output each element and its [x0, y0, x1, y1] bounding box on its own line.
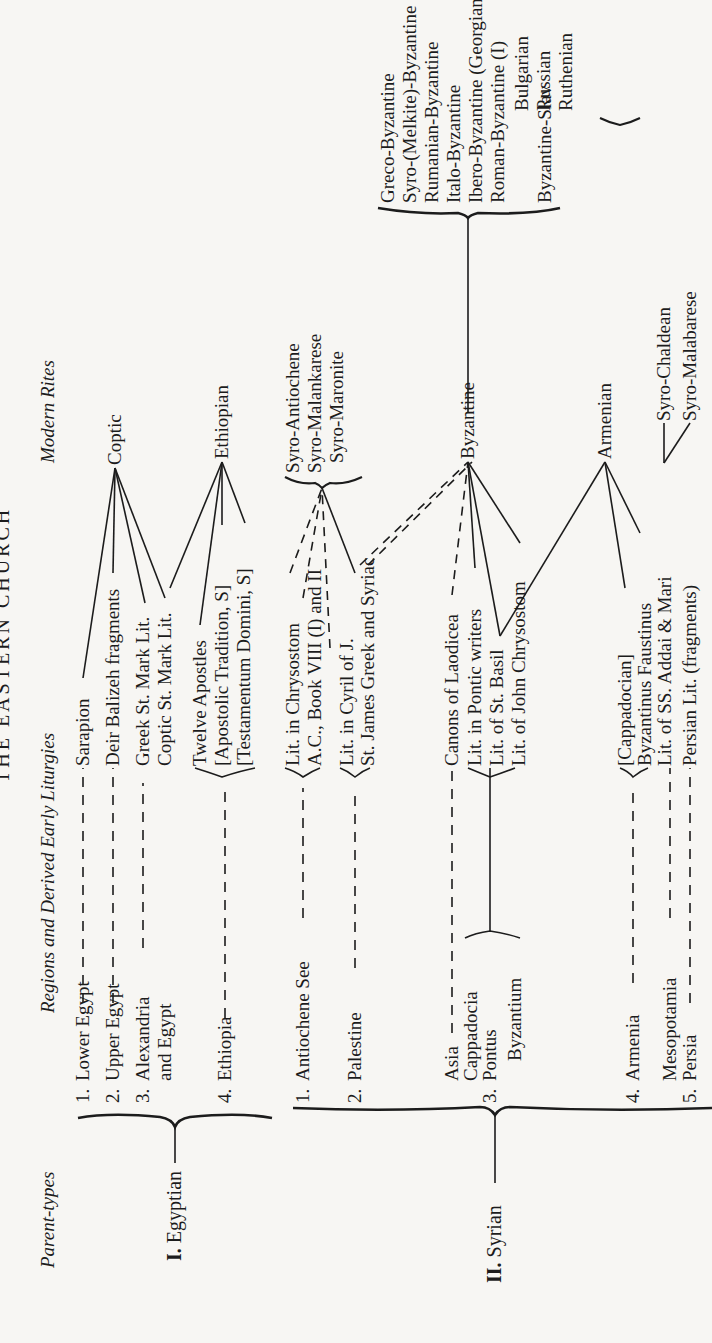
liturgy-addai-mari: Lit. of SS. Addai & Mari	[655, 577, 675, 766]
liturgy-deir-balizeh: Deir Balizeh fragments	[103, 589, 123, 766]
region-persia: 5.Persia	[680, 1035, 700, 1103]
rite-syro-chaldean: Syro-Chaldean	[654, 307, 674, 421]
liturgy-pontic-writers: Lit. in Pontic writers	[465, 609, 485, 766]
rite-syro-melkite-byzantine: Syro-(Melkite)-Byzantine	[400, 6, 420, 203]
liturgy-coptic-st-mark: Coptic St. Mark Lit.	[155, 612, 175, 766]
liturgy-st-basil: Lit. of St. Basil	[487, 649, 507, 766]
rite-syro-antiochene: Syro-Antiochene	[283, 343, 303, 473]
region-upper-egypt: 2.Upper Egypt	[103, 983, 123, 1103]
liturgy-sarapion: Sarapion	[73, 698, 93, 766]
syrian-brace	[293, 1107, 712, 1115]
rite-roman-byzantine: Roman-Byzantine (I)	[488, 41, 508, 203]
region-antiochene-see: 1.Antiochene See	[293, 961, 313, 1103]
region-pontus: 3.Pontus	[480, 1029, 500, 1103]
rite-bulgarian: Bulgarian	[512, 36, 532, 111]
rite-armenian: Armenian	[595, 383, 615, 459]
syro-brace	[285, 477, 362, 488]
egyptian-brace	[78, 1115, 272, 1127]
rite-ibero-byzantine: Ibero-Byzantine (Georgian)	[466, 0, 486, 203]
rite-russian: Russian	[534, 51, 554, 111]
liturgy-greek-st-mark: Greek St. Mark Lit.	[133, 617, 153, 766]
page-title: THE EASTERN CHURCH	[0, 507, 12, 783]
liturgy-twelve-apostles: Twelve Apostles	[190, 640, 210, 766]
liturgy-cyril-of-jerusalem: Lit. in Cyril of J.	[337, 638, 357, 766]
liturgy-apostolic-tradition: [Apostolic Tradition, S]	[212, 585, 232, 766]
liturgy-chrysostom: Lit. in Chrysostom	[283, 623, 303, 766]
liturgy-persian: Persian Lit. (fragments)	[680, 585, 700, 766]
rite-coptic: Coptic	[105, 414, 125, 465]
rite-italo-byzantine: Italo-Byzantine	[444, 85, 464, 203]
region-mesopotamia: Mesopotamia	[660, 978, 680, 1081]
rite-syro-malabarese: Syro-Malabarese	[680, 291, 700, 421]
liturgy-byzantinus-faustinus: Byzantinus Faustinus	[635, 603, 655, 766]
liturgy-john-chrysostom: Lit. of John Chrysostom	[509, 581, 529, 766]
region-palestine: 2.Palestine	[345, 1012, 365, 1103]
liturgy-cappadocian: [Cappadocian]	[615, 654, 635, 766]
rite-ethiopian: Ethiopian	[212, 385, 232, 459]
region-asia: Asia	[442, 1046, 462, 1081]
rite-rumanian-byzantine: Rumanian-Byzantine	[422, 42, 442, 203]
header-modern-rites: Modern Rites	[38, 360, 58, 463]
rite-syro-malankarese: Syro-Malankarese	[305, 334, 325, 473]
header-parent-types: Parent-types	[38, 1172, 58, 1268]
liturgy-apostolic-constitutions: A.C., Book VIII (I) and II	[305, 569, 325, 766]
liturgy-canons-laodicea: Canons of Laodicea	[442, 614, 462, 766]
region-lower-egypt: 1.Lower Egypt	[73, 981, 93, 1103]
rite-ruthenian: Ruthenian	[556, 33, 576, 111]
region-alexandria-line2: and Egypt	[155, 1003, 175, 1081]
region-cappadocia: Cappadocia	[461, 991, 481, 1081]
header-regions: Regions and Derived Early Liturgies	[38, 733, 58, 1013]
rite-byzantine: Byzantine	[458, 382, 478, 459]
liturgy-st-james: St. James Greek and Syriac	[358, 558, 378, 766]
liturgy-testamentum-domini: [Testamentum Domini, S]	[234, 568, 254, 766]
rotated-page: THE EASTERN CHURCH Parent-types Regions …	[0, 0, 712, 1343]
region-byzantium: Byzantium	[505, 978, 525, 1061]
byzantine-brace	[378, 208, 560, 218]
region-ethiopia: 4.Ethiopia	[215, 1017, 235, 1103]
rite-syro-maronite: Syro-Maronite	[327, 351, 347, 463]
rite-greco-byzantine: Greco-Byzantine	[378, 73, 398, 203]
parent-syrian: II. Syrian	[484, 1205, 504, 1283]
region-alexandria: 3.Alexandria	[133, 997, 153, 1103]
region-armenia: 4.Armenia	[623, 1015, 643, 1103]
parent-egyptian: I. Egyptian	[164, 1171, 184, 1261]
